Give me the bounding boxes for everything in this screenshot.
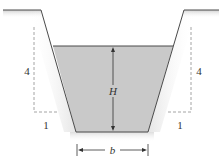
channel-diagram: H 4 1 4 1 b — [0, 0, 219, 161]
right-rise-label: 4 — [196, 65, 202, 77]
depth-label: H — [108, 85, 118, 97]
arrow-left-icon — [78, 148, 83, 152]
right-run-label: 1 — [177, 119, 183, 131]
bottom-width-label: b — [110, 144, 116, 156]
left-rise-label: 4 — [24, 65, 30, 77]
arrow-right-icon — [142, 148, 147, 152]
left-run-label: 1 — [43, 119, 49, 131]
